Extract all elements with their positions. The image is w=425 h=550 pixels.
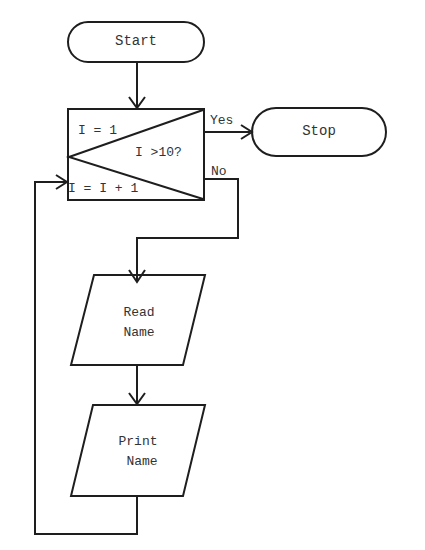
print-line1: Print <box>93 432 183 452</box>
read-line2: Name <box>94 323 184 343</box>
init-label: I = 1 <box>78 123 117 138</box>
flowchart-canvas <box>0 0 425 550</box>
stop-label: Stop <box>252 123 386 139</box>
condition-label: I >10? <box>135 145 182 160</box>
no-label: No <box>211 164 227 179</box>
print-label: Print Name <box>93 432 183 472</box>
start-label: Start <box>68 33 204 49</box>
read-label: Read Name <box>94 303 184 343</box>
yes-label: Yes <box>210 113 233 128</box>
read-line1: Read <box>94 303 184 323</box>
increment-label: I = I + 1 <box>68 181 138 196</box>
print-line2: Name <box>93 452 183 472</box>
